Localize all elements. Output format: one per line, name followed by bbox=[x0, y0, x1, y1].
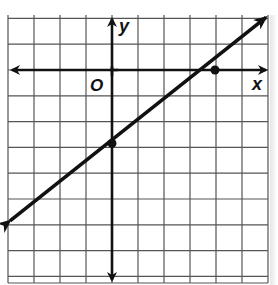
point-x-intercept bbox=[211, 66, 220, 75]
y-axis-label: y bbox=[118, 16, 130, 36]
x-axis-label: x bbox=[251, 74, 263, 94]
grid bbox=[8, 15, 268, 283]
origin-label: O bbox=[90, 76, 103, 95]
coordinate-graph: y x O bbox=[0, 0, 278, 285]
point-y-intercept bbox=[108, 139, 117, 148]
